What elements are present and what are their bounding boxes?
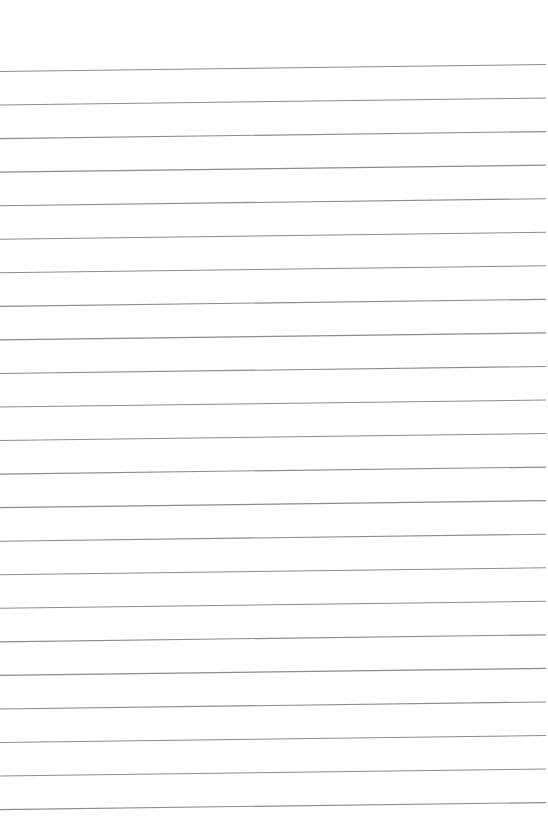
ruled-line xyxy=(0,769,546,776)
ruled-line xyxy=(0,165,546,172)
ruled-line xyxy=(0,467,546,474)
ruled-line xyxy=(0,501,546,508)
ruled-line xyxy=(0,534,546,541)
ruled-line xyxy=(0,803,546,810)
ruled-line xyxy=(0,199,546,206)
ruled-paper-sheet xyxy=(0,0,548,836)
ruled-lines xyxy=(0,0,548,836)
ruled-line xyxy=(0,434,546,441)
ruled-line xyxy=(0,702,546,709)
ruled-line xyxy=(0,635,546,642)
ruled-line xyxy=(0,333,546,340)
ruled-line xyxy=(0,98,546,105)
ruled-line xyxy=(0,668,546,675)
ruled-line xyxy=(0,736,546,743)
ruled-line xyxy=(0,266,546,273)
ruled-line xyxy=(0,299,546,306)
ruled-line xyxy=(0,601,546,608)
ruled-line xyxy=(0,400,546,407)
ruled-line xyxy=(0,132,546,139)
ruled-line xyxy=(0,232,546,239)
ruled-line xyxy=(0,568,546,575)
ruled-line xyxy=(0,65,546,72)
ruled-line xyxy=(0,366,546,373)
